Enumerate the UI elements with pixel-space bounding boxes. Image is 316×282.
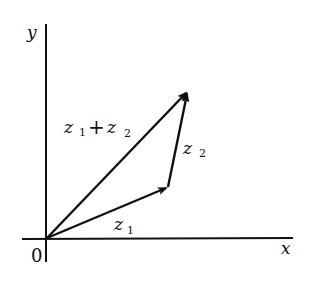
z2-label-base: z [182,138,193,158]
z1-label-base: z [113,214,124,234]
vector-z1 [47,188,166,238]
sum-label-base1: z [63,117,74,137]
z2-label-sub: 2 [199,147,206,160]
sum-label-sub2: 2 [124,127,131,140]
z1-label-sub: 1 [127,224,134,237]
sum-label-plus: + [88,115,105,139]
y-axis-label: y [26,22,37,42]
x-axis [22,238,293,239]
origin-label: 0 [31,245,42,266]
x-axis-label: x [281,238,291,258]
vector-diagram: y x 0 z 1 z 2 z 1 + z 2 [0,0,316,282]
sum-label-base2: z [106,117,117,137]
sum-label-sub1: 1 [79,126,86,139]
